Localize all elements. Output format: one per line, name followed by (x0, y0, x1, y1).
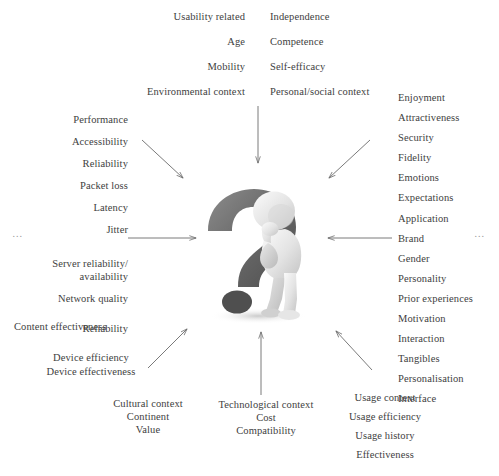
arrow-from-top-left (142, 140, 183, 178)
label-compatibility: Compatibility (236, 425, 296, 437)
question-mark-dot (222, 291, 252, 314)
label-independence: Independence (270, 11, 330, 23)
ellipsis-left: … (12, 228, 24, 239)
label-gender: Gender (398, 253, 430, 265)
label-continent: Continent (127, 411, 169, 423)
label-competence: Competence (270, 36, 323, 48)
label-enjoyment: Enjoyment (398, 92, 445, 104)
cluster-device: Device efficiency Device effectiveness (32, 352, 150, 380)
label-accessibility: Accessibility (72, 136, 128, 148)
label-cultural-context: Cultural context (113, 398, 183, 410)
label-device-effectiveness: Device effectiveness (47, 366, 136, 378)
label-performance: Performance (73, 114, 128, 126)
label-usage-history: Usage history (355, 430, 414, 442)
label-self-efficacy: Self-efficacy (270, 61, 325, 73)
arrow-from-bottom-right (336, 331, 372, 370)
label-brand: Brand (398, 233, 424, 245)
label-server-reliability: Server reliability/ (52, 258, 128, 270)
cluster-usage: Usage context Usage efficiency Usage his… (330, 392, 440, 468)
label-cost: Cost (256, 412, 276, 424)
figure-leg-front (283, 273, 297, 314)
label-expectations: Expectations (398, 192, 453, 204)
label-mobility: Mobility (207, 61, 245, 73)
label-personal-social-context: Personal/social context (270, 86, 369, 98)
cluster-cultural-context: Cultural context Continent Value (90, 398, 206, 437)
cluster-right: Enjoyment Attractiveness Security Fideli… (398, 92, 498, 414)
label-personality: Personality (398, 273, 446, 285)
label-usage-efficiency: Usage efficiency (349, 411, 421, 423)
label-environmental-context: Environmental context (147, 86, 245, 98)
label-security: Security (398, 132, 434, 144)
label-fidelity: Fidelity (398, 152, 431, 164)
label-usage-context: Usage context (354, 392, 415, 404)
label-network-quality: Network quality (58, 293, 128, 305)
label-effectiveness: Effectiveness (356, 449, 414, 461)
label-prior-experiences: Prior experiences (398, 293, 473, 305)
label-technological-context: Technological context (219, 399, 314, 411)
label-emotions: Emotions (398, 172, 439, 184)
label-jitter: Jitter (106, 224, 128, 236)
label-device-efficiency: Device efficiency (53, 352, 129, 364)
label-reliability: Reliability (83, 158, 128, 170)
label-tangibles: Tangibles (398, 353, 440, 365)
figure-shoe-back (261, 308, 281, 317)
center-question-mark-graphic (196, 183, 321, 325)
figure-hand (262, 222, 279, 236)
label-packet-loss: Packet loss (80, 180, 128, 192)
cluster-technological-context: Technological context Cost Compatibility (205, 399, 327, 438)
label-value: Value (136, 424, 160, 436)
label-latency: Latency (93, 202, 128, 214)
cluster-content-effectiveness: Content effectiveness (14, 321, 129, 333)
cluster-top-left: Usability related Age Mobility Environme… (60, 11, 245, 111)
label-application: Application (398, 213, 449, 225)
figure-shoe-front (278, 310, 300, 320)
label-personalisation: Personalisation (398, 373, 464, 385)
label-motivation: Motivation (398, 313, 446, 325)
cluster-left: Performance Accessibility Reliability Pa… (8, 114, 128, 345)
label-interaction: Interaction (398, 333, 445, 345)
diagram-canvas: Usability related Age Mobility Environme… (0, 0, 499, 476)
label-availability: availability (80, 271, 128, 283)
label-age: Age (227, 36, 245, 48)
arrow-from-top-right (329, 140, 370, 178)
label-content-effectiveness: Content effectiveness (14, 321, 107, 333)
label-attractiveness: Attractiveness (398, 112, 459, 124)
label-usability-related: Usability related (174, 11, 245, 23)
ellipsis-right: … (474, 228, 486, 239)
arrow-from-bottom-left (148, 329, 187, 368)
